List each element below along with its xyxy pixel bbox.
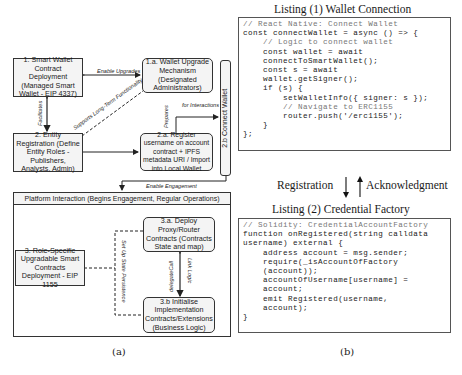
edge-label-link-logic: Link Logic — [187, 258, 193, 283]
box-label: 3.a. Deploy Proxy/Router Contracts (Cont… — [145, 217, 213, 251]
code-line: // Solidity: CredentialAccountFactory — [243, 221, 446, 230]
code-line: (account)); — [243, 267, 446, 276]
code-line: } — [243, 121, 446, 130]
box-entity-registration: 2. Entity Registration (Define Entity Ro… — [13, 133, 83, 172]
box-deploy-proxy-router: 3.a. Deploy Proxy/Router Contracts (Cont… — [143, 217, 215, 252]
caption-a: (a) — [112, 346, 126, 357]
listing2-title: Listing (2) Credential Factory — [272, 203, 410, 215]
box-label: 2. Entity Registration (Define Entity Ro… — [15, 131, 81, 174]
box-initialise-implementation: 3.b Initialise Implementation Contracts/… — [143, 297, 215, 333]
box-connect-wallet: 2.b Connect Wallet — [220, 60, 231, 176]
box-role-specific-contracts: 3. Role-Specific Upgradable Smart Contra… — [15, 250, 85, 286]
edge-label-prepares: Prepares — [163, 105, 169, 128]
caption-b: (b) — [340, 346, 354, 357]
arrow-down-icon — [343, 192, 349, 198]
box-label: 3. Role-Specific Upgradable Smart Contra… — [17, 247, 83, 290]
code-line: setWalletInfo({ signer: s }); — [243, 94, 446, 103]
edge-label-set-up-state-persistence: Set Up State Persistence — [121, 240, 127, 303]
code-line: // Logic to connect wallet — [243, 38, 446, 47]
box-label: 1. Smart Wallet Contract Deployment (Man… — [15, 56, 81, 99]
code-line: wallet.getSigner(); — [243, 75, 446, 84]
box-smart-wallet-deployment: 1. Smart Wallet Contract Deployment (Man… — [13, 58, 83, 97]
code-line: address account = msg.sender; — [243, 249, 446, 258]
code-line: emit Registered(username, — [243, 295, 446, 304]
box-label: 1.a. Wallet Upgrade Mechanism (Designate… — [144, 58, 211, 92]
code-line: accountOfUsername[username] = — [243, 276, 446, 285]
code-line: const connectWallet = async () => { — [243, 29, 446, 38]
code-line: account); — [243, 304, 446, 313]
box-register-username: 2.a. Register username on account contra… — [140, 133, 213, 171]
platform-interaction-header: Platform Interaction (Begins Engagement,… — [14, 193, 230, 205]
code-line: if (s) { — [243, 84, 446, 93]
box-wallet-upgrade-mechanism: 1.a. Wallet Upgrade Mechanism (Designate… — [142, 58, 213, 93]
code-line: }; — [243, 130, 446, 139]
code-line: router.push('/erc1155'); — [243, 112, 446, 121]
code-line: } — [243, 313, 446, 322]
arrow-up-icon — [357, 176, 363, 182]
listing1-code-block: // React Native: Connect Walletconst con… — [238, 17, 451, 151]
code-line: account; — [243, 285, 446, 294]
acknowledgment-label: Acknowledgment — [366, 179, 448, 191]
box-label: 2.b Connect Wallet — [221, 89, 230, 148]
box-label: 3.b Initialise Implementation Contracts/… — [145, 298, 213, 332]
code-line: connectToSmartWallet(); — [243, 57, 446, 66]
listing1-title: Listing (1) Wallet Connection — [274, 3, 411, 15]
edge-label-enable-upgrades: Enable Upgrades — [97, 68, 140, 74]
code-line: // React Native: Connect Wallet — [243, 20, 446, 29]
registration-label: Registration — [277, 179, 333, 191]
code-line: username) external { — [243, 239, 446, 248]
box-label: 2.a. Register username on account contra… — [142, 131, 211, 173]
code-line: require(_isAccountOfFactory — [243, 258, 446, 267]
code-line: const wallet = await — [243, 48, 446, 57]
code-line: // Navigate to ERC1155 — [243, 103, 446, 112]
edge-label-facilitates: Facilitates — [37, 101, 43, 126]
code-line: function onRegistered(string calldata — [243, 230, 446, 239]
code-line: const s = await — [243, 66, 446, 75]
edge-label-for-interactions: for Interactions — [182, 102, 219, 108]
listing2-code-block: // Solidity: CredentialAccountFactoryfun… — [238, 218, 451, 333]
edge-label-delegate-call: delegateCall — [168, 261, 174, 292]
edge-label-enable-engagement: Enable Engagement — [146, 183, 197, 189]
